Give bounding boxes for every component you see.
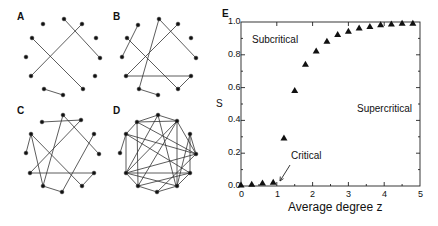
annotation-critical: Critical: [291, 150, 322, 161]
triangle-marker: [259, 180, 266, 186]
x-tick-0: 0: [239, 189, 244, 199]
annotation-subcritical: Subcritical: [252, 34, 298, 45]
network-c: [24, 113, 101, 194]
network-b: [120, 17, 198, 97]
x-tick-5: 5: [418, 189, 423, 199]
y-tick-0.6: 0.6: [228, 82, 241, 92]
y-tick-0.4: 0.4: [228, 114, 241, 124]
x-tick-3: 3: [346, 189, 351, 199]
triangle-marker: [356, 25, 363, 31]
triangle-marker: [399, 20, 406, 26]
x-tick-1: 1: [275, 189, 280, 199]
y-tick-0.2: 0.2: [228, 147, 241, 157]
network-d: [118, 113, 198, 194]
triangle-marker: [291, 87, 298, 93]
x-axis-label: Average degree z: [288, 200, 383, 214]
x-tick-4: 4: [382, 189, 387, 199]
triangle-marker: [345, 28, 352, 34]
network-a: [24, 17, 102, 97]
triangle-marker: [248, 181, 255, 187]
y-tick-0.8: 0.8: [228, 49, 241, 59]
triangle-marker: [323, 38, 330, 44]
triangle-marker: [409, 20, 416, 26]
triangle-marker: [334, 31, 341, 37]
y-axis-label: S: [216, 98, 223, 109]
triangle-marker: [280, 134, 287, 140]
y-tick-1.0: 1.0: [228, 16, 241, 26]
x-tick-2: 2: [310, 189, 315, 199]
triangle-marker: [270, 179, 277, 185]
triangle-marker: [388, 20, 395, 26]
triangle-marker: [313, 48, 320, 54]
triangle-marker: [302, 61, 309, 67]
triangle-marker: [366, 23, 373, 29]
annotation-supercritical: Supercritical: [357, 103, 412, 114]
